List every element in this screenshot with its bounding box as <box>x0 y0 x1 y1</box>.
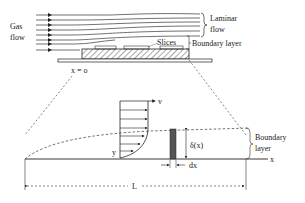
base-plate <box>58 59 212 62</box>
velocity-label: v <box>158 97 162 106</box>
boundary-layer-label-bottom-2: layer <box>255 144 271 153</box>
boundary-layer-bracket <box>186 36 189 49</box>
laminar-brace <box>201 13 207 37</box>
boundary-layer-label: Boundary layer <box>192 39 242 48</box>
slices-label: Slices <box>157 38 176 47</box>
laminar-label-2: flow <box>210 25 225 34</box>
projection-left <box>25 76 72 135</box>
gas-flow-label-2: flow <box>10 33 25 42</box>
thickness-label: δ(x) <box>190 141 203 150</box>
gas-flow-label: Gas <box>10 22 22 31</box>
dx-label: dx <box>189 161 197 170</box>
substrate <box>82 49 189 59</box>
length-label: L <box>132 182 137 191</box>
boundary-layer-curve <box>25 128 250 159</box>
y-axis-label: y <box>112 148 116 157</box>
slab-element <box>170 129 176 159</box>
velocity-profile <box>120 101 155 158</box>
origin-label: x = o <box>71 66 88 75</box>
streamline-arrows <box>48 13 52 52</box>
boundary-layer-label-bottom: Boundary <box>255 133 287 142</box>
projection-right <box>189 60 246 135</box>
x-axis-label: x <box>270 155 274 164</box>
boundary-layer-diagram: Gas flow Laminar flow Boundary layer Sli… <box>0 0 305 203</box>
laminar-label: Laminar <box>210 14 237 23</box>
boundary-layer-brace <box>246 128 253 159</box>
